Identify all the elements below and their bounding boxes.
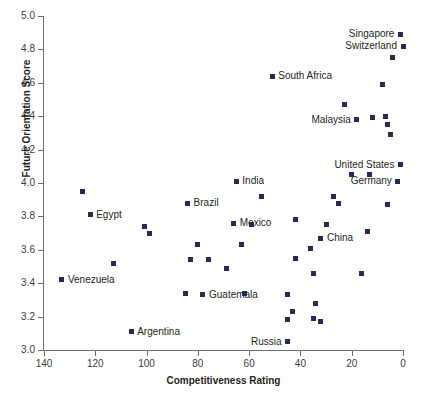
data-point[interactable] xyxy=(290,309,295,314)
y-tick-mark xyxy=(38,116,43,117)
x-tick-label: 20 xyxy=(332,358,372,369)
y-tick-label: 3.4 xyxy=(5,277,35,288)
data-point[interactable] xyxy=(224,266,229,271)
data-point-south-africa[interactable] xyxy=(270,74,275,79)
x-tick-label: 60 xyxy=(229,358,269,369)
data-point[interactable] xyxy=(388,132,393,137)
y-tick-label: 3.6 xyxy=(5,244,35,255)
data-point-germany[interactable] xyxy=(395,179,400,184)
x-tick-mark xyxy=(44,351,45,356)
data-point[interactable] xyxy=(242,291,247,296)
data-point-mexico[interactable] xyxy=(231,221,236,226)
data-point[interactable] xyxy=(380,82,385,87)
data-point[interactable] xyxy=(336,201,341,206)
y-tick-label: 3.2 xyxy=(5,311,35,322)
y-tick-mark xyxy=(38,183,43,184)
y-axis-title: Future Orientation Score xyxy=(21,49,32,189)
data-point[interactable] xyxy=(311,316,316,321)
x-tick-mark xyxy=(300,351,301,356)
x-tick-mark xyxy=(198,351,199,356)
point-label-brazil: Brazil xyxy=(194,198,219,208)
y-tick-mark xyxy=(38,317,43,318)
data-point[interactable] xyxy=(365,229,370,234)
data-point-united-states[interactable] xyxy=(398,162,403,167)
data-point[interactable] xyxy=(147,231,152,236)
data-point-china[interactable] xyxy=(318,236,323,241)
x-tick-label: 100 xyxy=(127,358,167,369)
y-tick-mark xyxy=(38,83,43,84)
data-point[interactable] xyxy=(239,242,244,247)
y-tick-mark xyxy=(38,283,43,284)
data-point[interactable] xyxy=(390,55,395,60)
data-point[interactable] xyxy=(142,224,147,229)
data-point[interactable] xyxy=(249,222,254,227)
data-point[interactable] xyxy=(206,257,211,262)
data-point[interactable] xyxy=(313,301,318,306)
data-point[interactable] xyxy=(183,291,188,296)
data-point[interactable] xyxy=(318,319,323,324)
x-tick-label: 40 xyxy=(280,358,320,369)
data-point[interactable] xyxy=(80,189,85,194)
data-point[interactable] xyxy=(370,115,375,120)
data-point[interactable] xyxy=(293,256,298,261)
y-tick-label: 3.0 xyxy=(5,344,35,355)
x-tick-label: 0 xyxy=(383,358,422,369)
point-label-mexico: Mexico xyxy=(240,218,272,228)
x-tick-label: 80 xyxy=(178,358,218,369)
data-point-argentina[interactable] xyxy=(129,329,134,334)
y-tick-mark xyxy=(38,350,43,351)
data-point-india[interactable] xyxy=(234,179,239,184)
data-point-venezuela[interactable] xyxy=(59,277,64,282)
y-tick-mark xyxy=(38,49,43,50)
data-point[interactable] xyxy=(285,317,290,322)
x-tick-mark xyxy=(352,351,353,356)
point-label-south-africa: South Africa xyxy=(278,71,332,81)
plot-area xyxy=(44,16,403,350)
point-label-russia: Russia xyxy=(251,337,282,347)
data-point[interactable] xyxy=(342,102,347,107)
x-tick-mark xyxy=(95,351,96,356)
data-point[interactable] xyxy=(385,122,390,127)
point-label-switzerland: Switzerland xyxy=(345,41,397,51)
y-tick-label: 5.0 xyxy=(5,10,35,21)
x-tick-mark xyxy=(147,351,148,356)
y-tick-mark xyxy=(38,16,43,17)
data-point[interactable] xyxy=(308,246,313,251)
scatter-chart: 3.03.23.43.63.84.04.24.44.64.85.0 140120… xyxy=(0,0,422,398)
point-label-china: China xyxy=(327,233,353,243)
point-label-united-states: United States xyxy=(334,160,394,170)
data-point[interactable] xyxy=(324,222,329,227)
point-label-india: India xyxy=(242,176,264,186)
data-point-malaysia[interactable] xyxy=(354,117,359,122)
data-point-singapore[interactable] xyxy=(398,32,403,37)
data-point[interactable] xyxy=(259,194,264,199)
y-tick-mark xyxy=(38,250,43,251)
data-point[interactable] xyxy=(383,114,388,119)
data-point-switzerland[interactable] xyxy=(401,44,406,49)
data-point-brazil[interactable] xyxy=(185,201,190,206)
y-tick-label: 3.8 xyxy=(5,210,35,221)
x-tick-mark xyxy=(403,351,404,356)
data-point[interactable] xyxy=(293,217,298,222)
point-label-guatemala: Guatemala xyxy=(209,290,258,300)
data-point[interactable] xyxy=(311,271,316,276)
data-point[interactable] xyxy=(331,194,336,199)
data-point[interactable] xyxy=(385,202,390,207)
point-label-malaysia: Malaysia xyxy=(311,115,350,125)
data-point[interactable] xyxy=(188,257,193,262)
data-point[interactable] xyxy=(359,271,364,276)
data-point-egypt[interactable] xyxy=(88,212,93,217)
data-point-russia[interactable] xyxy=(285,339,290,344)
y-tick-mark xyxy=(38,150,43,151)
data-point[interactable] xyxy=(195,242,200,247)
point-label-egypt: Egypt xyxy=(96,210,122,220)
x-tick-mark xyxy=(249,351,250,356)
data-point[interactable] xyxy=(285,292,290,297)
point-label-venezuela: Venezuela xyxy=(68,275,115,285)
data-point[interactable] xyxy=(111,261,116,266)
point-label-singapore: Singapore xyxy=(349,29,395,39)
data-point-guatemala[interactable] xyxy=(200,292,205,297)
x-axis-title: Competitiveness Rating xyxy=(44,375,403,386)
x-axis-line xyxy=(43,350,404,351)
x-tick-label: 120 xyxy=(75,358,115,369)
